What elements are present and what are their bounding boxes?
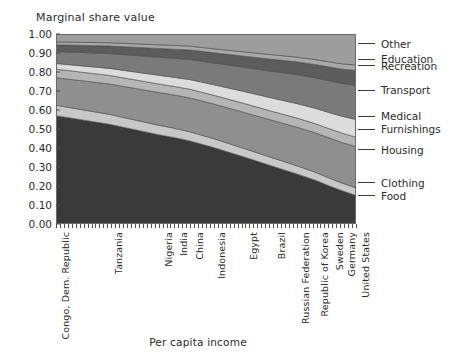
x-minor-tick bbox=[170, 224, 171, 228]
x-minor-tick bbox=[178, 224, 179, 228]
y-tick-mark bbox=[56, 129, 60, 130]
legend-item-recreation: Recreation bbox=[358, 60, 437, 72]
legend-leader-line bbox=[358, 195, 375, 196]
x-minor-tick bbox=[285, 224, 286, 228]
x-minor-tick bbox=[348, 224, 349, 228]
x-minor-tick bbox=[313, 224, 314, 228]
legend-item-transport: Transport bbox=[358, 84, 430, 96]
x-minor-tick bbox=[289, 224, 290, 228]
legend-label: Recreation bbox=[381, 60, 437, 72]
y-tick-mark bbox=[56, 167, 60, 168]
x-tick-label: Republic of Korea bbox=[319, 232, 330, 316]
legend-label: Medical bbox=[381, 110, 421, 122]
y-tick-mark bbox=[56, 110, 60, 111]
legend-leader-line bbox=[358, 90, 375, 91]
x-minor-tick bbox=[163, 224, 164, 228]
x-minor-tick bbox=[317, 224, 318, 228]
y-tick-label: 0.30 bbox=[22, 161, 52, 173]
legend-item-medical: Medical bbox=[358, 110, 421, 122]
legend-leader-line bbox=[358, 65, 375, 66]
y-tick-label: 0.70 bbox=[22, 85, 52, 97]
y-tick-label: 0.10 bbox=[22, 199, 52, 211]
y-tick-mark bbox=[56, 148, 60, 149]
x-tick-label: China bbox=[194, 232, 205, 260]
x-minor-tick bbox=[95, 224, 96, 228]
x-minor-tick bbox=[265, 224, 266, 228]
x-minor-tick bbox=[344, 224, 345, 228]
x-minor-tick bbox=[245, 224, 246, 228]
x-minor-tick bbox=[190, 224, 191, 228]
x-minor-tick bbox=[234, 224, 235, 228]
y-tick-label: 0.00 bbox=[22, 218, 52, 230]
x-minor-tick bbox=[111, 224, 112, 228]
y-axis-title: Marginal share value bbox=[36, 11, 155, 24]
y-axis-tick-labels: 1.000.900.800.700.600.500.400.300.200.10… bbox=[18, 0, 52, 356]
x-minor-tick bbox=[115, 224, 116, 228]
x-axis-title: Per capita income bbox=[0, 336, 396, 348]
x-minor-tick bbox=[281, 224, 282, 228]
y-tick-label: 1.00 bbox=[22, 28, 52, 40]
legend-item-food: Food bbox=[358, 190, 406, 202]
x-minor-tick bbox=[320, 224, 321, 228]
legend-item-clothing: Clothing bbox=[358, 177, 425, 189]
y-tick-label: 0.80 bbox=[22, 66, 52, 78]
x-minor-tick bbox=[182, 224, 183, 228]
x-minor-tick bbox=[210, 224, 211, 228]
x-minor-tick bbox=[159, 224, 160, 228]
x-tick-label: India bbox=[178, 232, 189, 256]
x-minor-tick bbox=[301, 224, 302, 228]
x-minor-tick bbox=[324, 224, 325, 228]
x-minor-tick bbox=[143, 224, 144, 228]
x-minor-tick bbox=[253, 224, 254, 228]
y-tick-mark bbox=[56, 34, 60, 35]
y-tick-mark bbox=[56, 53, 60, 54]
x-minor-tick bbox=[186, 224, 187, 228]
stacked-area-chart-figure: Marginal share value 1.000.900.800.700.6… bbox=[0, 0, 454, 356]
y-tick-label: 0.90 bbox=[22, 47, 52, 59]
y-tick-label: 0.40 bbox=[22, 142, 52, 154]
x-minor-tick bbox=[56, 224, 57, 228]
x-minor-tick bbox=[257, 224, 258, 228]
x-minor-tick bbox=[80, 224, 81, 228]
x-minor-tick bbox=[139, 224, 140, 228]
x-minor-tick bbox=[107, 224, 108, 228]
legend-label: Furnishings bbox=[381, 123, 441, 135]
y-tick-label: 0.20 bbox=[22, 180, 52, 192]
y-tick-mark bbox=[56, 91, 60, 92]
x-minor-tick bbox=[194, 224, 195, 228]
stacked-area-svg bbox=[56, 34, 356, 224]
x-tick-label: Tanzania bbox=[113, 232, 124, 274]
y-tick-mark bbox=[56, 72, 60, 73]
legend-label: Clothing bbox=[381, 177, 425, 189]
x-minor-tick bbox=[103, 224, 104, 228]
x-minor-tick bbox=[309, 224, 310, 228]
y-tick-label: 0.50 bbox=[22, 123, 52, 135]
x-minor-tick bbox=[167, 224, 168, 228]
x-tick-label: Egypt bbox=[248, 232, 259, 260]
legend-leader-line bbox=[358, 182, 375, 183]
plot-area bbox=[56, 34, 356, 224]
x-minor-tick bbox=[328, 224, 329, 228]
x-minor-tick bbox=[230, 224, 231, 228]
area-bands-group bbox=[56, 34, 356, 224]
y-tick-mark bbox=[56, 186, 60, 187]
y-tick-mark bbox=[56, 205, 60, 206]
x-minor-tick bbox=[249, 224, 250, 228]
legend-label: Housing bbox=[381, 144, 424, 156]
x-minor-tick bbox=[277, 224, 278, 228]
legend-item-furnishings: Furnishings bbox=[358, 123, 441, 135]
x-minor-tick bbox=[68, 224, 69, 228]
legend-item-housing: Housing bbox=[358, 144, 424, 156]
x-minor-tick bbox=[222, 224, 223, 228]
legend-leader-line bbox=[358, 116, 375, 117]
legend-leader-line bbox=[358, 129, 375, 130]
x-minor-tick bbox=[352, 224, 353, 228]
x-minor-tick bbox=[76, 224, 77, 228]
legend-leader-line bbox=[358, 43, 375, 44]
x-minor-tick bbox=[269, 224, 270, 228]
x-minor-tick bbox=[226, 224, 227, 228]
legend-item-other: Other bbox=[358, 38, 411, 50]
x-minor-tick bbox=[242, 224, 243, 228]
x-tick-label: Brazil bbox=[276, 232, 287, 259]
x-minor-tick bbox=[261, 224, 262, 228]
